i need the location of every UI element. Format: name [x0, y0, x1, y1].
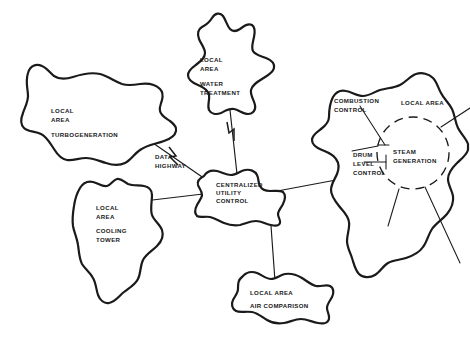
label-water-treatment-area: AREA: [200, 64, 219, 73]
label-data-highway: DATA HIGHWAY: [155, 152, 186, 170]
label-air-comparison-name: AIR COMPARISON: [250, 301, 309, 310]
label-steam-generation: STEAM GENERATION: [393, 147, 437, 165]
label-cooling-tower-name-2: TOWER: [96, 235, 120, 244]
label-combustion-control: COMBUSTION CONTROL: [334, 96, 379, 114]
link-water-treatment-to-center: [230, 110, 237, 174]
blob-turbogeneration[interactable]: [21, 65, 176, 165]
diagram-svg: [0, 0, 470, 339]
label-water-treatment-name-2: TREATMENT: [200, 88, 240, 97]
label-air-comparison-area: LOCAL AREA: [250, 288, 293, 297]
label-steam-area-local-area: LOCAL AREA: [401, 98, 444, 107]
label-turbogeneration-area: AREA: [51, 115, 70, 124]
label-cooling-tower-name-1: COOLING: [96, 226, 127, 235]
label-drum-level-control: DRUM LEVEL CONTROL: [353, 150, 386, 178]
blob-air-comparison[interactable]: [232, 272, 333, 323]
label-turbogeneration-local: LOCAL: [51, 106, 74, 115]
label-cooling-tower-area: AREA: [96, 212, 115, 221]
label-water-treatment-name-1: WATER: [200, 79, 223, 88]
label-water-treatment-local: LOCAL: [200, 55, 223, 64]
label-cooling-tower-local: LOCAL: [96, 203, 119, 212]
label-turbogeneration-name: TURBOGENERATION: [51, 130, 118, 139]
diagram-canvas: LOCAL AREA TURBOGENERATION LOCAL AREA WA…: [0, 0, 470, 339]
label-centralized-line3: CONTROL: [216, 197, 249, 206]
